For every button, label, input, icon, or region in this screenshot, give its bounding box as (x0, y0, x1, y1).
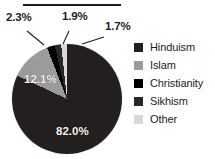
legend-item-label: Other (150, 114, 177, 125)
pie-plot-area: 12.1% 82.0% (0, 22, 132, 159)
legend-item-christianity: Christianity (134, 74, 215, 92)
legend-swatch-icon (134, 61, 143, 70)
legend-swatch-icon (134, 115, 143, 124)
legend-swatch-icon (134, 79, 143, 88)
legend-item-other: Other (134, 110, 215, 128)
slice-label-hinduism: 82.0% (56, 125, 89, 137)
legend-swatch-icon (134, 43, 143, 52)
slice-label-christianity: 2.3% (6, 11, 31, 23)
legend-swatch-icon (134, 97, 143, 106)
legend-item-islam: Islam (134, 56, 215, 74)
slice-label-islam: 12.1% (24, 73, 57, 85)
legend-item-label: Islam (150, 60, 176, 71)
pie-chart-figure: 12.1% 82.0% 2.3% 1.9% 1.7% Hinduism Isla… (0, 0, 215, 159)
chart-legend: Hinduism Islam Christianity Sikhism Othe… (134, 38, 215, 128)
leader-lines (0, 22, 132, 159)
title-rule (23, 4, 121, 6)
legend-item-sikhism: Sikhism (134, 92, 215, 110)
legend-item-label: Hinduism (150, 42, 195, 53)
slice-label-sikhism: 1.9% (62, 10, 87, 22)
slice-label-other: 1.7% (105, 20, 130, 32)
legend-item-label: Christianity (150, 78, 203, 89)
legend-item-hinduism: Hinduism (134, 38, 215, 56)
legend-item-label: Sikhism (150, 96, 188, 107)
